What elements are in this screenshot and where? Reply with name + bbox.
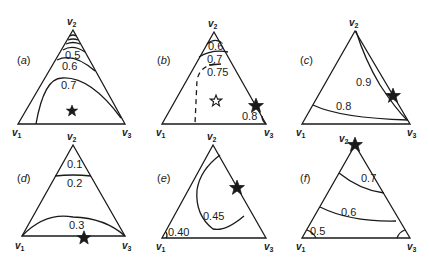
vertex-v3-label: v3 xyxy=(122,127,132,139)
vertex-v3-label: v3 xyxy=(264,241,274,253)
panel-c: (c) 0.9 0.8 v2 v1 v3 xyxy=(296,17,417,139)
contour-label: 0.3 xyxy=(69,219,84,231)
vertex-v2-label: v2 xyxy=(349,17,359,29)
contour-line xyxy=(70,35,76,36)
vertex-v1-label: v1 xyxy=(156,127,166,139)
contour-0.8 xyxy=(313,105,408,120)
contour-label: 0.2 xyxy=(67,177,82,189)
vertex-v1-label: v1 xyxy=(296,127,306,139)
contour-label: 0.75 xyxy=(207,66,228,78)
panel-label: (d) xyxy=(17,172,30,184)
vertex-v2-label: v2 xyxy=(339,133,349,145)
contour-label: 0.40 xyxy=(168,226,189,238)
triangle-outline xyxy=(162,145,266,238)
vertex-v2-label: v2 xyxy=(67,131,77,143)
contour-0.40 xyxy=(166,232,167,238)
vertex-v3-label: v3 xyxy=(407,241,417,253)
contour-label: 0.6 xyxy=(341,206,356,218)
contour-label: 0.8 xyxy=(242,110,257,122)
star-marker xyxy=(386,88,401,102)
vertex-v2-label: v2 xyxy=(208,18,218,30)
vertex-v2-label: v2 xyxy=(207,131,217,143)
panel-label: (b) xyxy=(157,54,170,66)
vertex-v3-label: v3 xyxy=(264,127,274,139)
contour-0.2 xyxy=(55,175,91,176)
contour-label: 0.9 xyxy=(356,76,371,88)
contour-label: 0.7 xyxy=(361,172,376,184)
contour-label: 0.6 xyxy=(208,40,223,52)
open-star-marker xyxy=(210,95,221,106)
star-marker xyxy=(230,180,245,194)
vertex-v3-label: v3 xyxy=(122,240,132,252)
panel-a: (a) 0.5 0.6 0.7 v2 v1 v3 xyxy=(12,16,132,139)
contour-label: 0.6 xyxy=(62,60,77,72)
contour-label: 0.45 xyxy=(203,210,224,222)
contour-label: 0.5 xyxy=(310,225,325,237)
panel-label: (e) xyxy=(157,172,170,184)
contour-label: 0.1 xyxy=(67,158,82,170)
star-marker xyxy=(77,231,91,244)
contour-label: 0.7 xyxy=(61,79,76,91)
vertex-v2-label: v2 xyxy=(67,16,77,28)
vertex-v3-label: v3 xyxy=(407,127,417,139)
contour-label: 0.7 xyxy=(207,53,222,65)
panel-f: (f) 0.7 0.6 0.5 v2 v1 v3 xyxy=(296,133,417,253)
panel-label: (f) xyxy=(300,172,310,184)
panel-label: (a) xyxy=(17,54,30,66)
vertex-v1-label: v1 xyxy=(12,127,22,139)
vertex-v1-label: v1 xyxy=(296,241,306,253)
star-marker xyxy=(66,105,77,116)
panel-e: (e) 0.45 0.40 v2 v1 v3 xyxy=(156,131,274,253)
ternary-figure: (a) 0.5 0.6 0.7 v2 v1 v3 (b) 0.6 0.7 0.7… xyxy=(0,0,429,264)
contour-label: 0.8 xyxy=(336,100,351,112)
contour-line xyxy=(66,43,80,45)
vertex-v1-label: v1 xyxy=(15,240,25,252)
panel-d: (d) 0.1 0.2 0.3 v2 v1 v3 xyxy=(15,131,132,252)
vertex-v1-label: v1 xyxy=(156,241,166,253)
panel-b: (b) 0.6 0.7 0.75 0.8 v2 v1 v3 xyxy=(156,18,274,139)
contour-0.6 xyxy=(320,207,396,221)
contour-0.5 xyxy=(397,230,405,238)
contour-0.7 xyxy=(36,78,121,124)
panel-label: (c) xyxy=(300,54,313,66)
contour-line xyxy=(68,39,78,40)
star-marker xyxy=(348,137,363,151)
